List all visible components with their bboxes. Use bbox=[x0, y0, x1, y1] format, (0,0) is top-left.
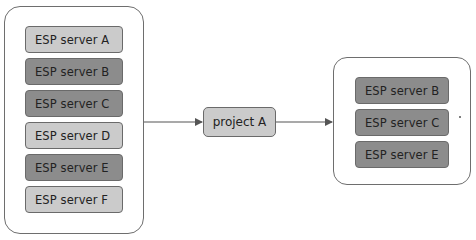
server-label: ESP server C bbox=[35, 97, 109, 111]
stray-dot bbox=[459, 116, 461, 118]
server-label: ESP server D bbox=[35, 129, 110, 143]
source-server-b: ESP server B bbox=[25, 58, 123, 85]
target-server-b: ESP server B bbox=[355, 77, 449, 104]
source-server-a: ESP server A bbox=[25, 26, 123, 53]
server-label: ESP server E bbox=[35, 161, 109, 175]
source-server-e: ESP server E bbox=[25, 154, 123, 181]
server-label: ESP server B bbox=[35, 65, 109, 79]
project-label: project A bbox=[213, 115, 267, 129]
source-server-d: ESP server D bbox=[25, 122, 123, 149]
server-label: ESP server C bbox=[365, 116, 439, 130]
source-server-c: ESP server C bbox=[25, 90, 123, 117]
source-server-f: ESP server F bbox=[25, 186, 123, 213]
server-label: ESP server A bbox=[35, 33, 109, 47]
server-label: ESP server B bbox=[365, 84, 439, 98]
target-server-e: ESP server E bbox=[355, 141, 449, 168]
server-label: ESP server E bbox=[365, 148, 439, 162]
server-label: ESP server F bbox=[35, 193, 108, 207]
target-server-c: ESP server C bbox=[355, 109, 449, 136]
project-node: project A bbox=[203, 107, 276, 137]
